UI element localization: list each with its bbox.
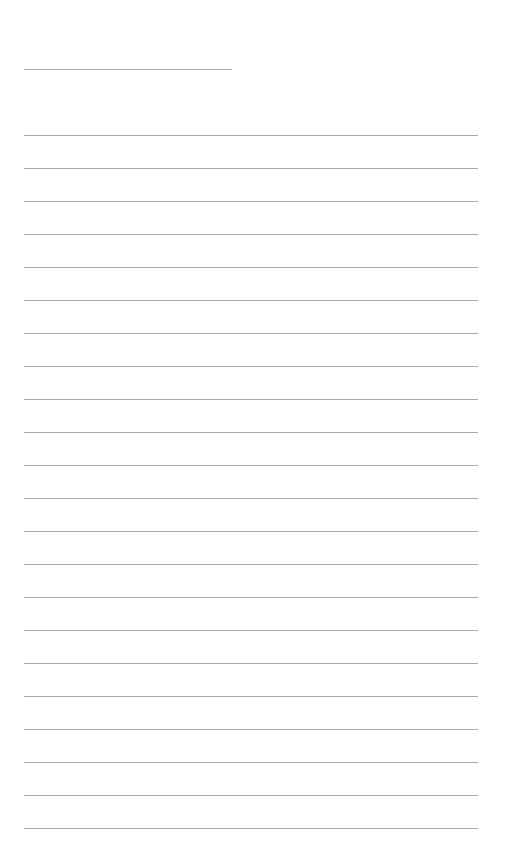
- ruled-line: [24, 828, 478, 829]
- ruled-line: [24, 465, 478, 466]
- ruled-line: [24, 795, 478, 796]
- ruled-line: [24, 696, 478, 697]
- ruled-line: [24, 597, 478, 598]
- ruled-line: [24, 267, 478, 268]
- ruled-line: [24, 168, 478, 169]
- ruled-line: [24, 432, 478, 433]
- ruled-line: [24, 333, 478, 334]
- ruled-line: [24, 498, 478, 499]
- ruled-line: [24, 366, 478, 367]
- ruled-line: [24, 201, 478, 202]
- ruled-line: [24, 531, 478, 532]
- header-title-line: [24, 69, 232, 70]
- ruled-line: [24, 630, 478, 631]
- ruled-line: [24, 399, 478, 400]
- ruled-line: [24, 663, 478, 664]
- ruled-line: [24, 729, 478, 730]
- ruled-line: [24, 762, 478, 763]
- ruled-line: [24, 234, 478, 235]
- ruled-line: [24, 135, 478, 136]
- ruled-line: [24, 300, 478, 301]
- ruled-line: [24, 564, 478, 565]
